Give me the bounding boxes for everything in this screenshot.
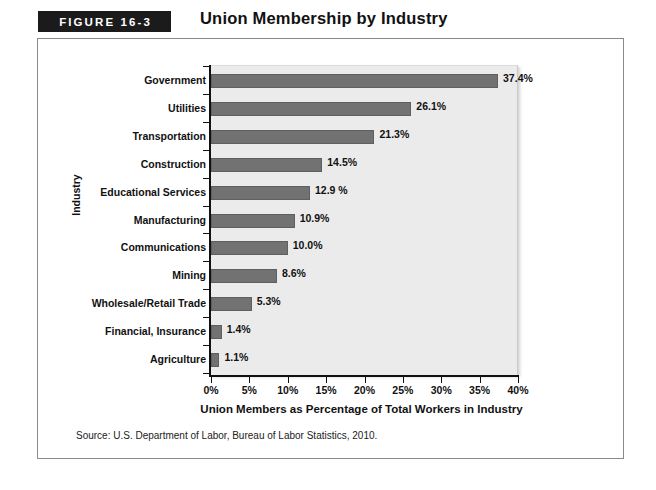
bar-track [211, 186, 310, 200]
y-axis-tick [203, 122, 210, 123]
category-label: Construction [141, 158, 206, 170]
category-label: Government [144, 74, 206, 86]
bar [211, 325, 222, 339]
x-axis-tick [211, 377, 212, 383]
y-axis-tick [203, 289, 210, 290]
x-axis-tick [441, 377, 442, 383]
bar-value-label: 37.4% [503, 72, 533, 84]
x-axis-tick-label: 10% [277, 384, 298, 396]
figure-number-label: FIGURE 16-3 [57, 16, 152, 28]
bar [211, 102, 411, 116]
x-axis-tick-label: 40% [507, 384, 528, 396]
x-axis-tick-label: 30% [431, 384, 452, 396]
category-label: Utilities [168, 102, 206, 114]
x-axis-tick-label: 25% [392, 384, 413, 396]
bar [211, 297, 252, 311]
bar-row: Financial, Insurance1.4% [38, 318, 518, 346]
x-axis-tick [480, 377, 481, 383]
x-axis-tick-label: 0% [203, 384, 218, 396]
category-label: Wholesale/Retail Trade [92, 297, 206, 309]
y-axis-tick [203, 345, 210, 346]
bar-value-label: 5.3% [257, 295, 281, 307]
x-axis-tick [518, 377, 519, 383]
bar-row: Manufacturing10.9% [38, 207, 518, 235]
y-axis-tick [203, 178, 210, 179]
bar-chart: Government37.4%Utilities26.1%Transportat… [38, 39, 625, 460]
figure-title: Union Membership by Industry [200, 9, 448, 28]
bar-track [211, 269, 277, 283]
bar-track [211, 130, 374, 144]
bar-track [211, 214, 295, 228]
category-label: Agriculture [150, 353, 206, 365]
bar-track [211, 297, 252, 311]
x-axis-tick [403, 377, 404, 383]
bar-track [211, 102, 411, 116]
bar-value-label: 8.6% [282, 267, 306, 279]
x-axis-tick [288, 377, 289, 383]
bar [211, 158, 322, 172]
bar-row: Communications10.0% [38, 234, 518, 262]
bar-value-label: 1.1% [224, 351, 248, 363]
bar-value-label: 1.4% [227, 323, 251, 335]
category-label: Educational Services [100, 186, 206, 198]
bar-row: Transportation21.3% [38, 123, 518, 151]
y-axis-title: Industry [70, 135, 82, 255]
bar-value-label: 21.3% [379, 128, 409, 140]
x-axis-tick-label: 20% [354, 384, 375, 396]
y-axis-tick [203, 150, 210, 151]
y-axis-tick [203, 66, 210, 67]
x-axis-tick-label: 35% [469, 384, 490, 396]
bar-row: Utilities26.1% [38, 95, 518, 123]
bar-track [211, 353, 219, 367]
bar-value-label: 10.0% [293, 239, 323, 251]
x-axis-title: Union Members as Percentage of Total Wor… [38, 403, 625, 415]
source-note: Source: U.S. Department of Labor, Bureau… [76, 430, 377, 441]
category-label: Communications [121, 241, 206, 253]
bar-value-label: 12.9 % [315, 184, 348, 196]
bar-value-label: 14.5% [327, 156, 357, 168]
bar-row: Wholesale/Retail Trade5.3% [38, 290, 518, 318]
bar-track [211, 158, 322, 172]
figure-header: FIGURE 16-3 Union Membership by Industry [0, 0, 656, 38]
y-axis-tick [203, 233, 210, 234]
bar-row: Mining8.6% [38, 262, 518, 290]
bar [211, 214, 295, 228]
y-axis-tick [203, 94, 210, 95]
bar-value-label: 10.9% [300, 212, 330, 224]
bar-row: Government37.4% [38, 67, 518, 95]
bar-row: Agriculture1.1% [38, 346, 518, 374]
bar-track [211, 241, 288, 255]
bar [211, 130, 374, 144]
category-label: Transportation [132, 130, 206, 142]
bar-track [211, 325, 222, 339]
x-axis-tick [365, 377, 366, 383]
y-axis-tick [203, 261, 210, 262]
category-label: Manufacturing [134, 214, 206, 226]
bar [211, 269, 277, 283]
bar-row: Educational Services12.9 % [38, 179, 518, 207]
y-axis-tick [203, 317, 210, 318]
bar-row: Construction14.5% [38, 151, 518, 179]
x-axis-tick-label: 5% [242, 384, 257, 396]
x-axis-tick [326, 377, 327, 383]
x-axis-tick-label: 15% [316, 384, 337, 396]
bar-value-label: 26.1% [416, 100, 446, 112]
y-axis-tick [203, 373, 210, 374]
bar [211, 353, 219, 367]
bar [211, 241, 288, 255]
bar [211, 74, 498, 88]
x-axis-tick [249, 377, 250, 383]
category-label: Financial, Insurance [105, 325, 206, 337]
figure-panel: Government37.4%Utilities26.1%Transportat… [37, 38, 624, 459]
bar-track [211, 74, 498, 88]
figure-number-badge: FIGURE 16-3 [38, 11, 171, 32]
bar [211, 186, 310, 200]
x-axis-title-text: Union Members as Percentage of Total Wor… [140, 403, 522, 415]
y-axis-tick [203, 206, 210, 207]
category-label: Mining [172, 269, 206, 281]
